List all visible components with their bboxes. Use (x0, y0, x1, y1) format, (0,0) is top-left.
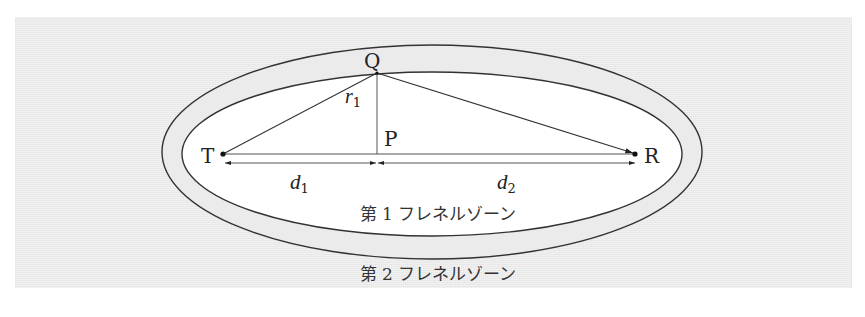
fresnel-zone-diagram: T R Q P r1 d1 d2 第 1 フレネルゾーン 第 2 フレネルゾーン (0, 0, 865, 317)
label-p: P (384, 127, 397, 151)
first-fresnel-zone-label: 第 1 フレネルゾーン (360, 204, 517, 224)
label-q: Q (364, 49, 380, 73)
point-t-dot (220, 151, 225, 156)
point-r-dot (632, 151, 637, 156)
label-r: R (644, 144, 660, 168)
second-fresnel-zone-label: 第 2 フレネルゾーン (360, 264, 517, 284)
label-t: T (201, 144, 215, 168)
